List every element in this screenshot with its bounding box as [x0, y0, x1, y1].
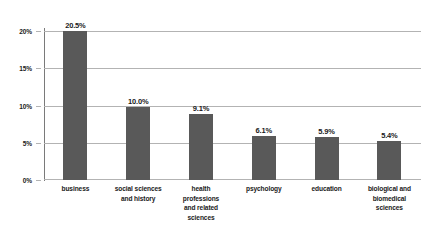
x-tick-label-health-professions: health professions and related sciences	[166, 184, 236, 222]
y-tick-label: 5%	[23, 139, 32, 146]
y-tick-label: 15%	[19, 65, 32, 72]
x-tick-label-line: biological and	[354, 184, 424, 194]
x-tick-label-line: education	[292, 184, 362, 194]
bar-chart-figure: 20% 15% 10% 5% 0% 20.5% 10.0% 9.1%	[0, 0, 437, 249]
y-tick-mark	[36, 31, 41, 32]
x-tick-label-line: and history	[103, 194, 173, 204]
x-tick-label-education: education	[292, 184, 362, 194]
x-tick-label-line: health	[166, 184, 236, 194]
x-tick-label-business: business	[40, 184, 110, 194]
x-tick-label-psychology: psychology	[229, 184, 299, 194]
x-tick-label-line: sciences	[166, 213, 236, 223]
y-tick-mark	[36, 143, 41, 144]
y-tick-label: 10%	[19, 102, 32, 109]
x-tick-label-line: business	[40, 184, 110, 194]
y-tick-mark	[36, 68, 41, 69]
x-tick-label-line: and related	[166, 203, 236, 213]
x-tick-label-line: sciences	[354, 203, 424, 213]
x-tick-label-biological-biomedical-sciences: biological and biomedical sciences	[354, 184, 424, 213]
x-tick-label-line: professions	[166, 194, 236, 204]
y-tick-label: 20%	[19, 28, 32, 35]
y-tick-label: 0%	[23, 177, 32, 184]
y-tick-mark	[36, 106, 41, 107]
x-tick-label-social-sciences-and-history: social sciences and history	[103, 184, 173, 203]
x-tick-label-line: psychology	[229, 184, 299, 194]
x-tick-label-line: biomedical	[354, 194, 424, 204]
y-axis-tick-labels: 20% 15% 10% 5% 0%	[0, 0, 32, 249]
x-tick-label-line: social sciences	[103, 184, 173, 194]
x-axis-tick-labels: business social sciences and history hea…	[44, 0, 421, 249]
y-tick-mark	[36, 180, 41, 181]
